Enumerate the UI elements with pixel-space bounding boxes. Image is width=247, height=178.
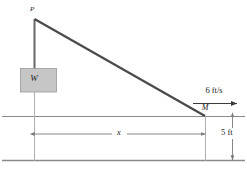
- label-mass: M: [202, 104, 209, 112]
- label-distance-x: x: [117, 128, 121, 137]
- label-weight: W: [30, 74, 38, 83]
- label-height-5ft: 5 ft: [221, 128, 233, 137]
- cable-line: [35, 19, 206, 116]
- pulley-diagram-figure: P W M 6 ft/s x 5 ft: [0, 0, 247, 178]
- label-velocity: 6 ft/s: [205, 86, 222, 95]
- weight-block: [21, 69, 57, 93]
- label-pulley-point: P: [30, 6, 34, 13]
